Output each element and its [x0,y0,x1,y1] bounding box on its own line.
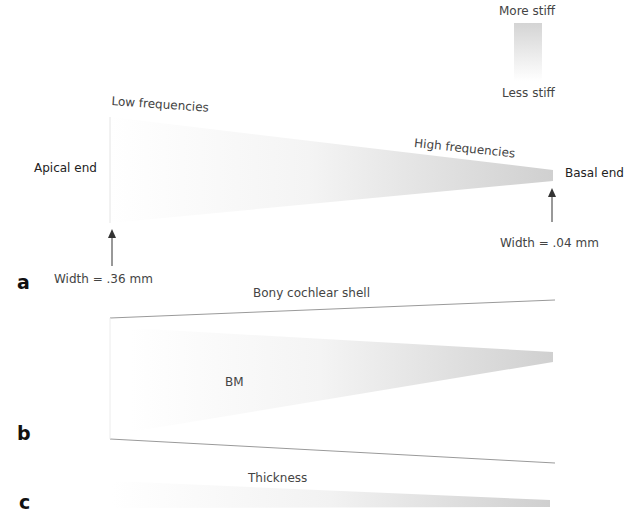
bony-shell-bottom-line [110,439,555,463]
panel-a-membrane [110,117,553,223]
legend-less-stiff: Less stiff [502,86,555,100]
bm-label: BM [225,375,244,389]
basilar-membrane [130,328,553,432]
thickness-label: Thickness [248,471,307,485]
bony-shell-top-line [110,300,555,318]
stiffness-gradient-bar [514,23,542,81]
panel-a-letter: a [17,271,30,293]
panel-c-letter: c [19,491,30,513]
basal-end-label: Basal end [565,166,624,180]
legend-more-stiff: More stiff [499,4,555,18]
basal-width-label: Width = .04 mm [500,236,599,250]
thickness-wedge [112,481,550,508]
bony-cochlear-shell-label: Bony cochlear shell [253,286,370,300]
panel-b-letter: b [17,422,31,444]
apical-end-label: Apical end [34,161,97,175]
cochlea-diagram [0,0,628,526]
apical-width-label: Width = .36 mm [54,272,153,286]
